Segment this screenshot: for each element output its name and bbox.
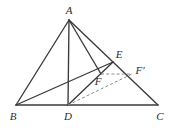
segment-ac — [69, 20, 158, 105]
geometry-figure: A B C D E F F′ — [0, 0, 174, 130]
vertex-label-F: F — [95, 76, 102, 87]
segment-af — [69, 20, 101, 74]
segment-ab — [16, 20, 69, 105]
vertex-label-E: E — [116, 49, 123, 60]
vertex-label-F-prime: F′ — [135, 65, 144, 76]
geometry-canvas — [0, 0, 174, 130]
segment-de — [68, 62, 113, 105]
segment-ad — [68, 20, 69, 105]
vertex-label-A: A — [66, 5, 73, 16]
solid-segment-group — [16, 20, 158, 105]
vertex-label-B: B — [10, 111, 17, 122]
vertex-label-C: C — [156, 111, 163, 122]
vertex-label-D: D — [64, 111, 72, 122]
